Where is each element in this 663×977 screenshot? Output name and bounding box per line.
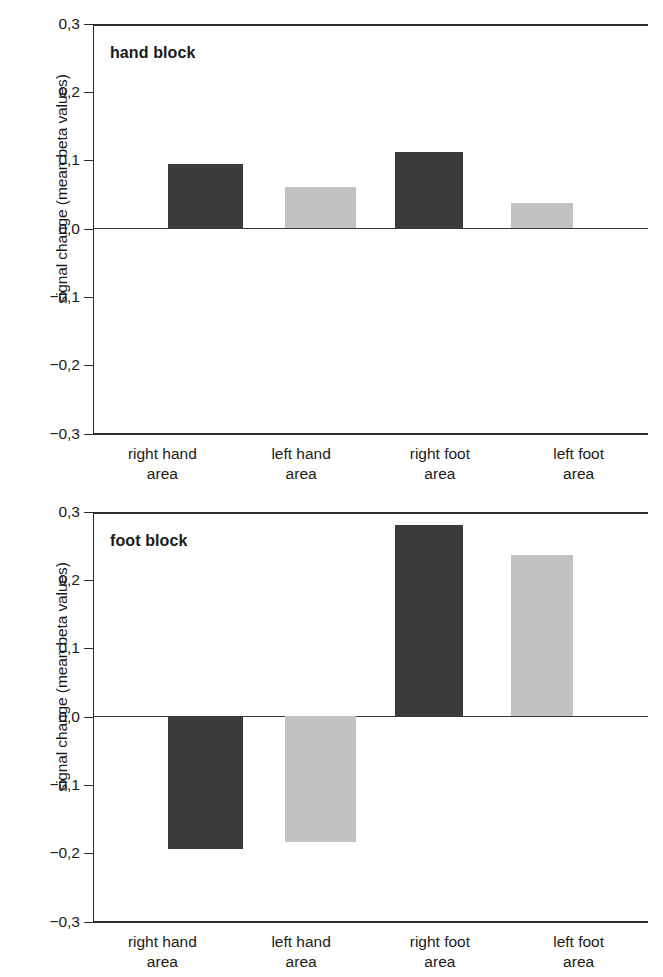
y-tick-label: 0,2	[36, 571, 80, 589]
y-tick-mark	[84, 785, 93, 786]
x-label-line1: right foot	[410, 933, 470, 950]
x-axis-category-labels: right hand area left hand area right foo…	[93, 444, 648, 484]
y-tick-mark	[84, 717, 93, 718]
y-tick-mark	[84, 297, 93, 298]
x-label-line2: area	[93, 464, 232, 484]
x-label-left-hand-area: left hand area	[232, 932, 371, 972]
panel-title-hand-block: hand block	[110, 44, 195, 62]
plot-bottom-border	[93, 921, 648, 923]
y-axis-tick-labels: 0,3 0,2 0,1 0,0 −0,1 −0,2 −0,3	[36, 488, 80, 977]
y-tick-mark	[84, 580, 93, 581]
x-label-right-hand-area: right hand area	[93, 444, 232, 484]
x-label-line2: area	[371, 464, 510, 484]
bar-hand-block-right-foot-area	[395, 152, 463, 228]
y-tick-mark	[84, 648, 93, 649]
x-label-right-foot-area: right foot area	[371, 444, 510, 484]
x-label-left-hand-area: left hand area	[232, 444, 371, 484]
x-label-right-foot-area: right foot area	[371, 932, 510, 972]
x-label-line2: area	[232, 464, 371, 484]
x-axis-category-labels: right hand area left hand area right foo…	[93, 932, 648, 972]
x-label-line1: left foot	[553, 933, 604, 950]
y-tick-label: 0,0	[36, 220, 80, 238]
y-tick-label: −0,1	[36, 288, 80, 306]
x-label-line2: area	[371, 952, 510, 972]
plot-bottom-border	[93, 433, 648, 435]
y-tick-label: −0,1	[36, 776, 80, 794]
plot-area	[93, 24, 648, 435]
y-tick-label: −0,2	[36, 844, 80, 862]
bar-hand-block-left-hand-area	[285, 187, 356, 228]
y-tick-label: 0,2	[36, 83, 80, 101]
y-tick-mark	[84, 853, 93, 854]
x-label-line1: right hand	[128, 933, 197, 950]
figure-two-bar-panels: signal change (mean beta values) 0,3 0,2…	[0, 0, 663, 977]
y-tick-label: −0,3	[36, 913, 80, 931]
x-label-line1: left hand	[271, 445, 330, 462]
y-tick-mark	[84, 92, 93, 93]
y-axis-tick-labels: 0,3 0,2 0,1 0,0 −0,1 −0,2 −0,3	[36, 0, 80, 490]
y-tick-mark	[84, 229, 93, 230]
y-tick-mark	[84, 160, 93, 161]
bar-hand-block-right-hand-area	[168, 164, 243, 228]
x-label-left-foot-area: left foot area	[509, 444, 648, 484]
y-tick-label: 0,0	[36, 708, 80, 726]
x-label-line1: right foot	[410, 445, 470, 462]
y-tick-label: 0,1	[36, 151, 80, 169]
plot-top-border	[93, 24, 648, 26]
x-label-line2: area	[93, 952, 232, 972]
bar-foot-block-right-hand-area	[168, 716, 243, 849]
plot-top-border	[93, 512, 648, 514]
x-label-line1: left hand	[271, 933, 330, 950]
bar-hand-block-left-foot-area	[511, 203, 573, 228]
y-tick-label: 0,1	[36, 639, 80, 657]
x-label-line2: area	[232, 952, 371, 972]
y-tick-label: 0,3	[36, 15, 80, 33]
y-tick-mark	[84, 434, 93, 435]
x-label-line1: right hand	[128, 445, 197, 462]
y-tick-label: −0,3	[36, 425, 80, 443]
zero-baseline	[93, 228, 648, 229]
chart-panel-foot-block: signal change (mean beta values) 0,3 0,2…	[0, 488, 663, 977]
x-label-line2: area	[509, 952, 648, 972]
y-tick-mark	[84, 512, 93, 513]
chart-panel-hand-block: signal change (mean beta values) 0,3 0,2…	[0, 0, 663, 490]
bar-foot-block-left-hand-area	[285, 716, 356, 842]
panel-title-foot-block: foot block	[110, 532, 187, 550]
bar-foot-block-left-foot-area	[511, 555, 573, 716]
x-label-line1: left foot	[553, 445, 604, 462]
y-tick-label: −0,2	[36, 356, 80, 374]
y-tick-mark	[84, 24, 93, 25]
x-label-right-hand-area: right hand area	[93, 932, 232, 972]
x-label-line2: area	[509, 464, 648, 484]
y-tick-label: 0,3	[36, 503, 80, 521]
y-tick-mark	[84, 922, 93, 923]
x-label-left-foot-area: left foot area	[509, 932, 648, 972]
y-tick-mark	[84, 365, 93, 366]
bar-foot-block-right-foot-area	[395, 525, 463, 716]
